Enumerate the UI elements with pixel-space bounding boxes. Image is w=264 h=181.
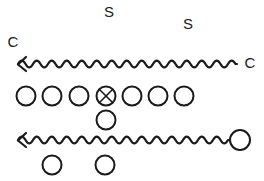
label-c-left: C xyxy=(8,33,19,50)
diagram-canvas: SSCC xyxy=(0,0,264,181)
wavy-line-top xyxy=(18,57,237,71)
wavy-line-bottom xyxy=(18,130,250,150)
circle-row-main xyxy=(17,87,194,106)
circle-10 xyxy=(96,156,115,175)
diagram-svg: SSCC xyxy=(0,0,264,181)
label-s-top-right: S xyxy=(183,15,193,32)
circle-1 xyxy=(17,87,36,106)
label-c-right: C xyxy=(245,54,256,71)
wavy-line-bottom-path xyxy=(18,137,229,144)
circles-layer xyxy=(17,87,194,175)
circle-2 xyxy=(43,87,62,106)
label-s-top-left: S xyxy=(104,3,114,20)
circle-8 xyxy=(97,111,116,130)
circle-7 xyxy=(175,87,194,106)
circle-6 xyxy=(149,87,168,106)
circle-row-bottom xyxy=(43,156,115,175)
circle-5 xyxy=(123,87,142,106)
circle-row-middle xyxy=(97,111,116,130)
circle-9 xyxy=(43,156,62,175)
wavy-line-top-path xyxy=(18,61,237,68)
wavy-line-bottom-end-circle xyxy=(230,130,250,150)
circle-3 xyxy=(70,87,89,106)
